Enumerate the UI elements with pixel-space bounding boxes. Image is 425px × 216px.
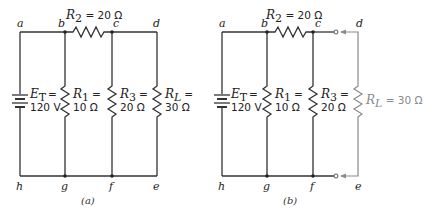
battery-icon [12,95,28,107]
junction-f [311,174,315,178]
node-label-g: g [263,180,270,193]
node-label-a: a [17,17,24,30]
label-r2: R2 = 20 Ω [265,8,322,25]
junction-g [63,174,67,178]
open-terminal-bottom [334,174,338,178]
label-rl-value: 30 Ω [165,101,190,113]
circuit-b: a b c d h g f e R2 = 20 Ω ET= 120 V R1= … [214,8,423,206]
label-rl-detached: RL = 30 Ω [365,93,423,110]
open-terminal-top [334,30,338,34]
resistor-r2-icon [267,27,313,37]
node-label-h: h [218,180,225,193]
label-r1-value: 10 Ω [275,101,300,113]
label-source-value: 120 V [30,101,61,113]
node-label-a: a [219,17,226,30]
label-r3-value: 20 Ω [321,101,346,113]
label-r1-value: 10 Ω [73,101,98,113]
battery-icon [214,95,230,107]
label-r3-value: 20 Ω [120,101,145,113]
resistor-r1-icon [61,32,69,176]
junction-b [265,30,269,34]
junction-c [311,30,315,34]
resistor-r1-icon [263,32,271,176]
arrow-left-icon [340,174,346,179]
node-label-h: h [16,180,23,193]
node-label-e: e [355,180,362,193]
junction-f [110,174,114,178]
node-label-g: g [61,180,68,193]
resistor-r3-icon [108,32,116,176]
resistor-rl-icon [153,32,161,176]
resistor-r2-icon [65,27,112,37]
node-label-f: f [309,180,316,193]
label-source-value: 120 V [231,101,262,113]
resistor-r3-icon [309,32,317,176]
junction-b [63,30,67,34]
arrow-left-icon [340,30,346,35]
caption-a: (a) [81,195,95,206]
node-label-f: f [108,180,115,193]
caption-b: (b) [283,195,297,206]
circuit-diagrams: a b c d h g f e R2 = 20 Ω ET= 120 V R1= … [0,0,425,216]
junction-g [265,174,269,178]
junction-c [110,30,114,34]
node-label-d: d [356,17,363,30]
node-label-d: d [153,17,160,30]
node-label-e: e [153,180,160,193]
node-label-b: b [58,17,65,30]
circuit-a: a b c d h g f e R2 = 20 Ω ET= 120 V R1= … [12,8,193,206]
